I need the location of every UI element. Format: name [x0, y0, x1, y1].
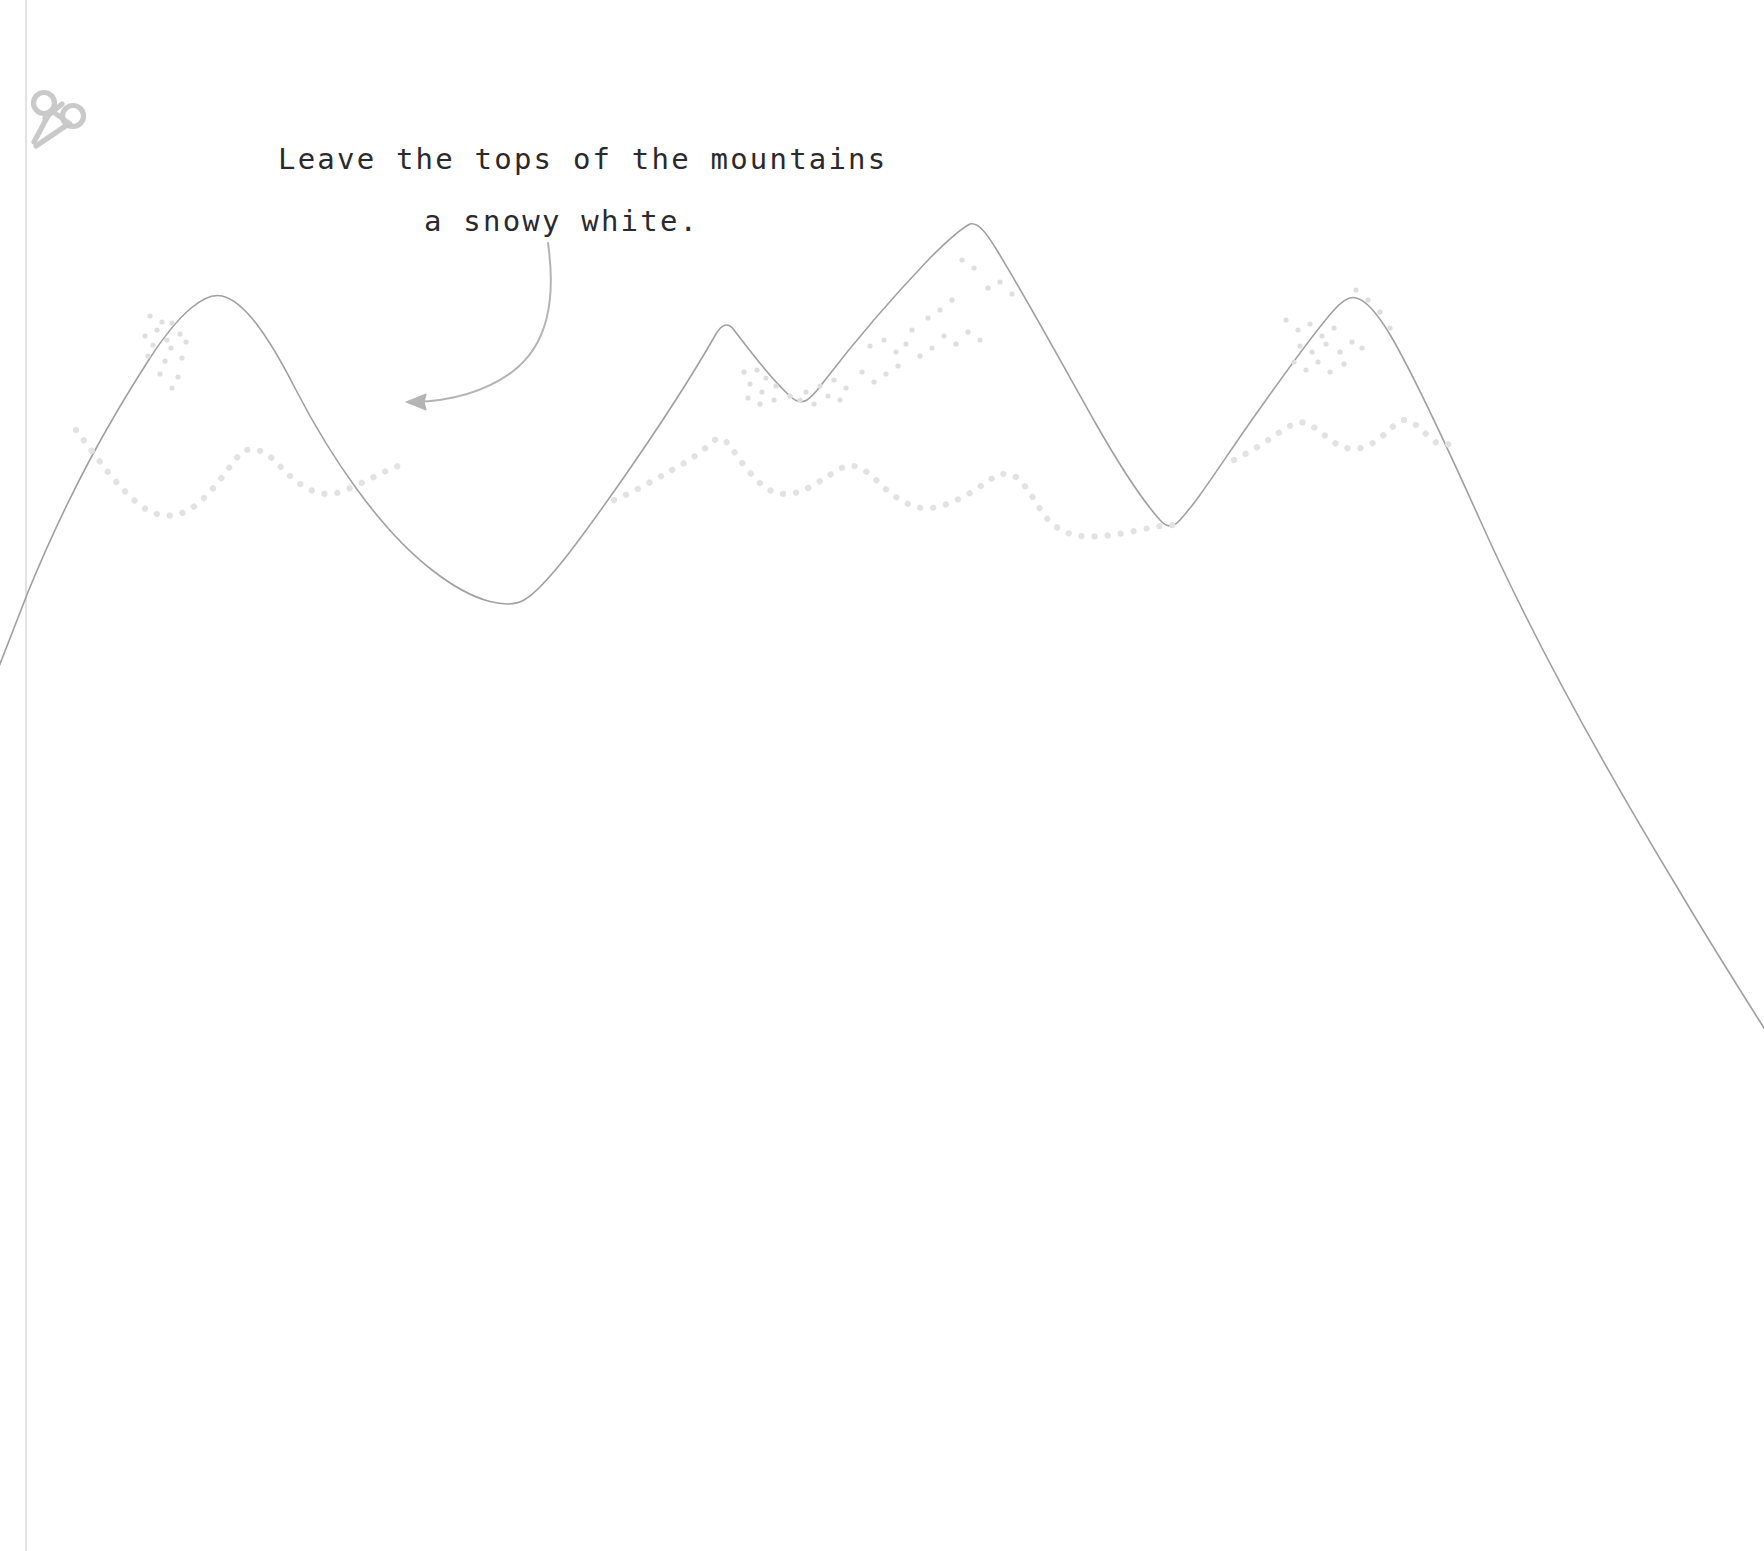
snow-speckle: [168, 345, 173, 350]
snow-speckle: [971, 265, 976, 270]
snow-speckle: [157, 371, 162, 376]
worksheet-page: Leave the tops of the mountains a snowy …: [0, 0, 1764, 1551]
snow-speckle: [759, 389, 764, 394]
snow-speckle: [997, 279, 1002, 284]
snow-speckle: [771, 397, 776, 402]
snow-speckle: [169, 320, 174, 325]
snow-line-dotted: [76, 420, 1450, 537]
snow-speckle: [917, 353, 922, 358]
snow-speckle: [1331, 325, 1336, 330]
snow-speckle: [929, 345, 934, 350]
snow-speckle: [909, 327, 914, 332]
snow-speckle: [965, 329, 970, 334]
snow-speckle: [859, 369, 864, 374]
snow-speckle: [1349, 339, 1354, 344]
snow-speckle: [825, 393, 830, 398]
curved-arrow-icon: [406, 243, 551, 410]
snow-speckle: [1319, 333, 1324, 338]
snow-speckle: [893, 349, 898, 354]
snow-speckle: [177, 331, 182, 336]
snow-speckle: [1353, 287, 1358, 292]
snow-speckle: [1309, 349, 1314, 354]
mountain-artwork-canvas: [0, 0, 1764, 1551]
snow-speckle: [787, 393, 792, 398]
snow-speckle: [837, 397, 842, 402]
snow-speckle: [747, 381, 752, 386]
snow-speckle: [871, 379, 876, 384]
snow-speckle: [949, 297, 954, 302]
snow-speckle: [937, 307, 942, 312]
snow-speckle: [745, 395, 750, 400]
snow-speckle: [977, 337, 982, 342]
snow-speckle: [925, 315, 930, 320]
snow-speckle: [154, 327, 159, 332]
mountain-ridge-outline: [0, 224, 1764, 1028]
scissors-icon: [34, 93, 84, 147]
snow-speckle: [142, 333, 147, 338]
snow-speckle: [803, 389, 808, 394]
snow-speckle: [953, 341, 958, 346]
snow-speckle: [757, 401, 762, 406]
snow-speckle: [754, 367, 759, 372]
snow-speckle: [831, 377, 836, 382]
snow-speckle: [169, 385, 174, 390]
snow-speckle: [881, 337, 886, 342]
snow-speckle: [175, 374, 180, 379]
snow-speckle: [1387, 325, 1392, 330]
snow-speckle: [985, 285, 990, 290]
snow-speckle: [183, 339, 188, 344]
snow-speckle: [867, 343, 872, 348]
snow-speckles: [142, 257, 1392, 406]
snow-speckle: [959, 257, 964, 262]
snow-speckle: [903, 341, 908, 346]
snow-speckle: [1307, 321, 1312, 326]
snow-speckle: [843, 385, 848, 390]
snow-speckle: [1323, 341, 1328, 346]
snow-speckle: [145, 353, 150, 358]
snow-speckle: [164, 337, 169, 342]
snow-speckle: [1297, 343, 1302, 348]
snow-speckle: [1303, 367, 1308, 372]
snow-speckle: [179, 355, 184, 360]
snow-speckle: [1377, 309, 1382, 314]
snow-speckle: [741, 369, 746, 374]
snow-speckle: [147, 313, 152, 318]
snow-speckle: [895, 363, 900, 368]
snow-speckle: [1295, 327, 1300, 332]
snow-speckle: [797, 397, 802, 402]
snow-speckle: [1283, 317, 1288, 322]
snow-speckle: [1327, 369, 1332, 374]
snow-speckle: [1009, 291, 1014, 296]
snow-speckle: [817, 383, 822, 388]
snow-speckle: [1291, 359, 1296, 364]
snow-speckle: [1341, 361, 1346, 366]
snow-speckle: [811, 401, 816, 406]
snow-speckle: [1365, 297, 1370, 302]
snow-speckle: [162, 358, 167, 363]
snow-speckle: [773, 383, 778, 388]
snow-speckle: [941, 333, 946, 338]
snow-speckle: [883, 371, 888, 376]
snow-speckle: [159, 319, 164, 324]
snow-speckle: [150, 342, 155, 347]
snow-speckle: [1337, 349, 1342, 354]
snow-speckle: [763, 375, 768, 380]
snow-speckle: [1315, 359, 1320, 364]
snow-speckle: [1359, 345, 1364, 350]
